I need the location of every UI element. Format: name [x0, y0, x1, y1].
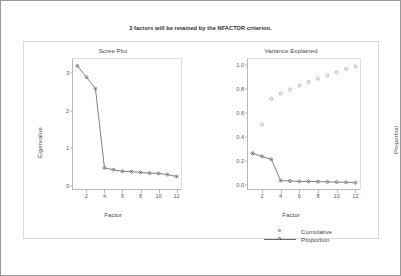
variance-explained-y-label: Proportion: [392, 125, 399, 154]
data-point: [157, 172, 160, 175]
data-point: [112, 168, 115, 171]
x-axis-tick-mark: [262, 190, 263, 193]
data-point: [139, 171, 142, 174]
scree-plot-series-layer: [72, 58, 182, 190]
data-point: [166, 173, 169, 176]
data-point: [94, 87, 97, 90]
y-axis-tick-mark: [70, 185, 73, 186]
x-axis-tick-mark: [281, 190, 282, 193]
data-point: [103, 166, 106, 169]
data-point: [307, 180, 310, 183]
data-point: [76, 64, 79, 67]
data-point: [317, 77, 320, 80]
data-point: [317, 180, 320, 183]
x-axis-tick-label: 8: [139, 193, 142, 199]
scree-plot-title: Scree Plot: [24, 47, 202, 54]
x-axis-tick-label: 2: [85, 193, 88, 199]
data-point: [270, 158, 273, 161]
x-axis-tick-label: 10: [334, 193, 340, 199]
x-axis-tick-mark: [299, 190, 300, 193]
x-axis-tick-mark: [355, 190, 356, 193]
x-axis-tick-label: 10: [155, 193, 161, 199]
legend-label-proportion: Proportion: [297, 236, 330, 243]
x-axis-tick-label: 4: [279, 193, 282, 199]
y-axis-tick-mark: [245, 137, 248, 138]
variance-explained-title: Variance Explained: [202, 47, 380, 54]
x-axis-tick-mark: [337, 190, 338, 193]
x-axis-tick-mark: [122, 190, 123, 193]
scree-plot-y-label: Eigenvalue: [36, 127, 43, 158]
y-axis-tick-label: 1.0: [236, 62, 244, 68]
data-point: [335, 71, 338, 74]
data-point: [298, 180, 301, 183]
x-axis-tick-label: 6: [121, 193, 124, 199]
plot-panel: Scree Plot 012324681012 Factor Eigenvalu…: [23, 41, 379, 239]
line-filled-circle-icon: [263, 235, 297, 243]
variance-explained-axes: 0.00.20.40.60.81.024681012: [247, 58, 361, 190]
x-axis-tick-mark: [104, 190, 105, 193]
legend-item-proportion: Proportion: [263, 235, 363, 243]
data-point: [345, 181, 348, 184]
data-point: [307, 81, 310, 84]
x-axis-tick-label: 12: [173, 193, 179, 199]
legend-label-cumulative: Cumulative: [297, 228, 332, 235]
data-point: [85, 76, 88, 79]
scree-plot: Scree Plot 012324681012 Factor Eigenvalu…: [24, 42, 202, 240]
y-axis-tick-label: 0.0: [236, 182, 244, 188]
x-axis-tick-label: 6: [298, 193, 301, 199]
open-circle-icon: [263, 227, 297, 235]
y-axis-tick-mark: [245, 89, 248, 90]
data-point: [335, 181, 338, 184]
x-axis-tick-mark: [159, 190, 160, 193]
y-axis-tick-label: 0.6: [236, 110, 244, 116]
data-point: [260, 123, 263, 126]
x-axis-tick-mark: [86, 190, 87, 193]
y-axis-tick-mark: [70, 73, 73, 74]
variance-explained-x-label: Factor: [202, 211, 380, 218]
y-axis-tick-label: 0.4: [236, 134, 244, 140]
variance-explained-plot: Variance Explained 0.00.20.40.60.81.0246…: [202, 42, 380, 240]
data-point: [326, 74, 329, 77]
data-point: [354, 181, 357, 184]
series-line-proportion: [253, 153, 356, 182]
legend-item-cumulative: Cumulative: [263, 227, 363, 235]
data-point: [279, 92, 282, 95]
data-point: [251, 152, 254, 155]
page-title: 3 factors will be retained by the NFACTO…: [1, 25, 400, 31]
legend: Cumulative Proportion: [263, 227, 363, 243]
y-axis-tick-mark: [245, 161, 248, 162]
x-axis-tick-label: 8: [316, 193, 319, 199]
data-point: [175, 175, 178, 178]
x-axis-tick-mark: [177, 190, 178, 193]
data-point: [130, 170, 133, 173]
x-axis-tick-label: 12: [352, 193, 358, 199]
data-point: [354, 65, 357, 68]
data-point: [298, 84, 301, 87]
data-point: [270, 97, 273, 100]
data-point: [326, 180, 329, 183]
x-axis-tick-mark: [318, 190, 319, 193]
x-axis-tick-label: 4: [103, 193, 106, 199]
x-axis-tick-label: 2: [260, 193, 263, 199]
y-axis-tick-mark: [245, 185, 248, 186]
data-point: [288, 180, 291, 183]
y-axis-tick-mark: [245, 113, 248, 114]
y-axis-tick-mark: [70, 148, 73, 149]
variance-explained-series-layer: [247, 58, 361, 190]
series-line-eigenvalue: [77, 66, 176, 177]
scree-plot-x-label: Factor: [24, 211, 202, 218]
data-point: [345, 68, 348, 71]
x-axis-tick-mark: [141, 190, 142, 193]
factor-analysis-output: 3 factors will be retained by the NFACTO…: [0, 0, 401, 276]
y-axis-tick-label: 0.2: [236, 158, 244, 164]
y-axis-tick-mark: [70, 110, 73, 111]
data-point: [121, 170, 124, 173]
data-point: [279, 179, 282, 182]
y-axis-tick-mark: [245, 65, 248, 66]
data-point: [148, 172, 151, 175]
scree-plot-axes: 012324681012: [72, 58, 182, 190]
y-axis-tick-label: 0.8: [236, 86, 244, 92]
data-point: [260, 155, 263, 158]
data-point: [288, 88, 291, 91]
